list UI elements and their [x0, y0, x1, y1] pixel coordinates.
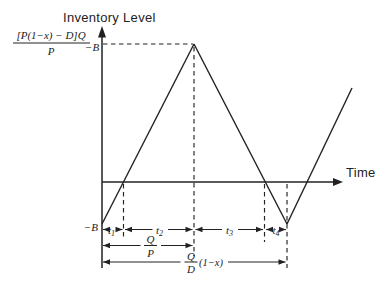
t3-label: t3 [226, 224, 233, 239]
production-duration-arrow: Q P [103, 233, 193, 259]
production-duration-label: Q P [144, 233, 157, 259]
cycle-duration-arrow: Q D (1−x) [103, 250, 286, 275]
peak-fraction-denominator: P [47, 45, 55, 57]
y-axis-title: Inventory Level [63, 10, 156, 25]
svg-text:Q: Q [147, 233, 155, 245]
peak-minus-b: −B [85, 41, 99, 53]
next-cycle-buildup-line [287, 88, 352, 224]
x-axis-title: Time [346, 165, 376, 180]
production-buildup-line [102, 44, 194, 224]
svg-text:Q: Q [187, 250, 195, 262]
backorder-level-label: −B [84, 221, 98, 233]
inventory-epq-diagram: Inventory Level Time [P(1−x) − D]Q P −B … [0, 0, 387, 285]
svg-text:P: P [146, 247, 154, 259]
y-axis-arrowhead-icon [98, 26, 106, 38]
t1-dimension-arrow: t1 [103, 224, 123, 239]
peak-value-label: [P(1−x) − D]Q P −B [13, 29, 99, 57]
t2-label: t2 [156, 224, 163, 239]
svg-text:D: D [186, 263, 195, 275]
depletion-line [194, 44, 287, 224]
t2-dimension-arrow: t2 [125, 224, 193, 239]
cycle-duration-label: Q D (1−x) [185, 250, 224, 275]
svg-text:(1−x): (1−x) [199, 257, 223, 269]
t4-dimension-arrow: t4 [266, 224, 286, 239]
figure-canvas: Inventory Level Time [P(1−x) − D]Q P −B … [0, 0, 387, 285]
x-axis-arrowhead-icon [333, 178, 343, 186]
t1-label: t1 [108, 224, 115, 239]
peak-fraction-numerator: [P(1−x) − D]Q [16, 29, 85, 42]
t4-label: t4 [272, 224, 279, 239]
t3-dimension-arrow: t3 [196, 224, 264, 239]
